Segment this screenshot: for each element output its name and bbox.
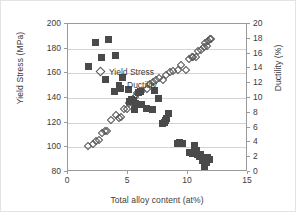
filled-square-icon bbox=[113, 82, 124, 88]
y-axis-right-tick-label: 10 bbox=[253, 92, 279, 102]
gridline bbox=[68, 147, 246, 148]
x-axis-tick-label: 10 bbox=[172, 175, 202, 185]
open-diamond-icon bbox=[95, 68, 106, 75]
y-axis-right-tickmark bbox=[247, 141, 250, 142]
data-point-ductility bbox=[206, 156, 213, 163]
y-axis-left-tick-label: 200 bbox=[35, 18, 61, 28]
data-point-ductility bbox=[165, 110, 172, 117]
y-axis-right-tickmark bbox=[247, 67, 250, 68]
x-axis-tick-label: 15 bbox=[232, 175, 262, 185]
y-axis-right-tick-label: 20 bbox=[253, 18, 279, 28]
data-point-ductility bbox=[112, 52, 119, 59]
y-axis-right-tickmark bbox=[247, 112, 250, 113]
x-axis-tickmark bbox=[127, 171, 128, 174]
y-axis-right-tickmark bbox=[247, 53, 250, 54]
y-axis-right-tick-label: 12 bbox=[253, 77, 279, 87]
data-point-ductility bbox=[155, 95, 162, 102]
y-axis-right-tick-label: 8 bbox=[253, 107, 279, 117]
chart-figure: Yield Stress (MPa) Ductility (%) Total a… bbox=[0, 0, 296, 212]
x-axis-tickmark bbox=[187, 171, 188, 174]
x-axis-tickmark bbox=[67, 171, 68, 174]
data-point-ductility bbox=[149, 106, 156, 113]
gridline bbox=[68, 49, 246, 50]
legend-item-ductility: Ductility bbox=[95, 78, 157, 91]
data-point-ductility bbox=[131, 106, 138, 113]
y-axis-right-tickmark bbox=[247, 82, 250, 83]
x-axis-tickmark bbox=[247, 171, 248, 174]
y-axis-left-tick-label: 160 bbox=[35, 67, 61, 77]
y-axis-right-tick-label: 4 bbox=[253, 136, 279, 146]
y-axis-right-tickmark bbox=[247, 156, 250, 157]
y-axis-right-tick-label: 14 bbox=[253, 62, 279, 72]
x-axis-tick-label: 0 bbox=[52, 175, 82, 185]
legend-label-yield-stress: Yield Stress bbox=[109, 67, 154, 77]
x-axis-tick-label: 5 bbox=[112, 175, 142, 185]
y-axis-left-tick-label: 100 bbox=[35, 141, 61, 151]
y-axis-left-tick-label: 140 bbox=[35, 92, 61, 102]
data-point-ductility bbox=[98, 54, 105, 61]
data-point-ductility bbox=[92, 39, 99, 46]
y-axis-left-title: Yield Stress (MPa) bbox=[15, 13, 25, 123]
legend-label-ductility: Ductility bbox=[127, 80, 157, 90]
data-point-ductility bbox=[179, 140, 186, 147]
y-axis-right-tick-label: 6 bbox=[253, 122, 279, 132]
y-axis-right-tickmark bbox=[247, 127, 250, 128]
y-axis-right-tick-label: 18 bbox=[253, 33, 279, 43]
data-point-ductility bbox=[105, 36, 112, 43]
y-axis-right-tickmark bbox=[247, 23, 250, 24]
legend-item-yield-stress: Yield Stress bbox=[95, 65, 157, 78]
data-point-ductility bbox=[85, 63, 92, 70]
gridline bbox=[68, 123, 246, 124]
y-axis-right-tickmark bbox=[247, 38, 250, 39]
chart-legend: Yield Stress Ductility bbox=[95, 65, 157, 91]
y-axis-right-tickmark bbox=[247, 97, 250, 98]
y-axis-left-tick-label: 180 bbox=[35, 43, 61, 53]
y-axis-left-tick-label: 120 bbox=[35, 117, 61, 127]
plot-area bbox=[67, 23, 247, 171]
y-axis-right-tick-label: 16 bbox=[253, 48, 279, 58]
y-axis-right-tick-label: 2 bbox=[253, 151, 279, 161]
x-axis-title: Total alloy content (at%) bbox=[67, 195, 247, 205]
